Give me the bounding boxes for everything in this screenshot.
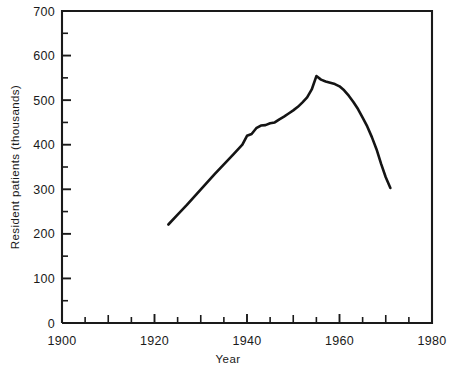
x-axis-title: Year [216,353,241,365]
axes-frame [62,11,432,323]
y-tick-label-400: 400 [33,138,55,152]
y-tick-label-600: 600 [33,49,55,63]
line-chart: 0100200300400500600700 19001920194019601… [0,0,455,377]
y-axis-ticks [62,11,71,323]
series-group [168,76,390,224]
y-axis-tick-labels: 0100200300400500600700 [33,5,55,331]
x-tick-label-1960: 1960 [325,334,354,348]
x-tick-label-1900: 1900 [47,334,76,348]
chart-container: 0100200300400500600700 19001920194019601… [0,0,455,377]
x-axis-tick-labels: 19001920194019601980 [47,334,446,348]
x-tick-label-1920: 1920 [140,334,169,348]
x-tick-label-1980: 1980 [417,334,446,348]
y-axis-title: Resident patients (thousands) [9,85,21,249]
y-tick-label-100: 100 [33,272,55,286]
y-tick-label-0: 0 [48,317,55,331]
y-tick-label-200: 200 [33,227,55,241]
y-tick-label-500: 500 [33,94,55,108]
x-axis-ticks [62,314,432,323]
y-tick-label-700: 700 [33,5,55,19]
y-tick-label-300: 300 [33,183,55,197]
plot-frame [62,11,432,323]
x-tick-label-1940: 1940 [232,334,261,348]
series-line-resident-patients [168,76,390,224]
